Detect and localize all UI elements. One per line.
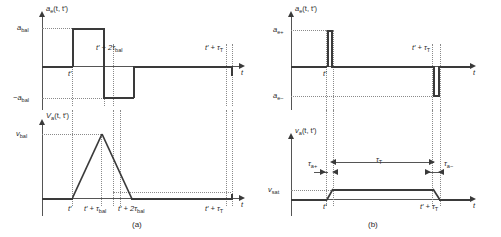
dimension-arrow-tau-a-plus-right-icon: [332, 169, 338, 175]
trace-plateau-neg: [103, 97, 134, 99]
trace-flat-before: [291, 199, 327, 201]
panel-a-velocity-plot: Va(t, t′) vbal t′ t′ + τbal t′ + 2τbal t…: [0, 110, 252, 237]
x-axis-label: t: [473, 202, 475, 210]
x-tick-label-tau-T: t′ + τT: [205, 205, 223, 213]
annotation-tau-T: τT: [376, 156, 382, 164]
trace-plateau-v-sat: [333, 189, 433, 191]
x-tick-label-2tau-bal: t′ + 2τbal: [118, 205, 144, 213]
y-axis-arrow-icon: [288, 133, 294, 139]
x-tick-label-tau-T: t′ + τT: [205, 44, 223, 52]
gridline-a-bal: [42, 28, 72, 29]
dimension-line-tau-T: [332, 162, 434, 163]
y-axis: [42, 16, 43, 110]
trace-spike-pos-rise: [327, 30, 329, 67]
trace-spike-neg-rise: [438, 66, 440, 97]
gridline-t-prime-tau-T-b: [232, 110, 233, 206]
trace-ramp-up: [72, 133, 103, 200]
annotation-tau-a-minus: τa−: [444, 160, 453, 168]
trace-baseline-right: [133, 66, 232, 68]
y-axis-arrow-icon: [39, 11, 45, 17]
y-axis: [291, 138, 292, 216]
panel-b-acceleration-plot: ae(t, t′) ae+ ae− t′ t′ + τT t: [252, 0, 501, 110]
y-tick-label-a-e-minus: ae−: [273, 92, 284, 100]
gridline-t-prime-tau-T: [226, 110, 227, 206]
panel-a-caption: (a): [132, 220, 142, 229]
gridline-t-prime-tau-T: [226, 44, 227, 106]
y-axis-title: ae(t, t′): [295, 5, 317, 13]
y-axis-title: ae(t, t′): [46, 5, 68, 13]
figure-root: ae(t, t′) abal −abal t′ t′ + 2τbal t′ + …: [0, 0, 501, 237]
y-tick-label-a-bal: abal: [17, 24, 29, 32]
panel-a: ae(t, t′) abal −abal t′ t′ + 2τbal t′ + …: [0, 0, 252, 237]
trace-fall-to-neg: [103, 28, 105, 98]
y-tick-label-v-sat: vsat: [268, 186, 279, 194]
y-axis-arrow-icon: [288, 11, 294, 17]
trace-flat-after: [131, 198, 232, 200]
trace-baseline-left: [42, 66, 73, 68]
panel-a-acceleration-plot: ae(t, t′) abal −abal t′ t′ + 2τbal t′ + …: [0, 0, 252, 110]
y-tick-label-neg-a-bal: −abal: [13, 94, 29, 102]
dimension-arrow-tau-a-minus-left-icon: [425, 169, 431, 175]
trace-ramp-down: [101, 133, 133, 200]
y-axis-arrow-icon: [39, 119, 45, 125]
dimension-arrow-tau-a-plus-left-icon: [320, 169, 326, 175]
trace-baseline-middle: [331, 66, 433, 68]
y-tick-label-v-bal: vbal: [16, 130, 27, 138]
panel-b-caption: (b): [368, 220, 378, 229]
panel-b-velocity-plot: va(t, t′) vsat τa+ τT τa− t′ t′ + τT t: [252, 110, 501, 237]
dimension-arrow-tau-T-left-icon: [330, 159, 336, 165]
annotation-tau-a-plus: τa+: [308, 160, 317, 168]
panel-b: ae(t, t′) ae+ ae− t′ t′ + τT t: [252, 0, 501, 237]
trace-terminal-edge: [231, 66, 233, 76]
dimension-arrow-tau-a-minus-right-icon: [438, 169, 444, 175]
gridline-a-e-plus: [291, 30, 330, 31]
x-tick-label-tau-bal: t′ + τbal: [84, 205, 106, 213]
gridline-a-e-minus: [291, 96, 436, 97]
dimension-arrow-tau-T-right-icon: [429, 159, 435, 165]
x-tick-label-t-prime: t′: [323, 203, 327, 211]
trace-rise-pos: [72, 28, 74, 67]
gridline-t-prime-tau-T-b: [440, 44, 441, 110]
gridline-neg-a-bal: [42, 98, 104, 99]
trace-spike-pos-fall: [331, 30, 333, 67]
trace-plateau-pos: [72, 28, 104, 30]
trace-flat-before: [42, 198, 73, 200]
x-tick-label-2tau-bal: t′ + 2τbal: [96, 44, 122, 52]
x-tick-label-tau-T: t′ + τT: [412, 44, 430, 52]
x-tick-label-t-prime: t′: [68, 205, 72, 213]
y-axis-title: Va(t, t′): [46, 112, 69, 120]
gridline-t-prime-b: [333, 30, 334, 110]
y-axis: [42, 124, 43, 216]
trace-spike-neg-fall: [433, 66, 435, 97]
x-tick-label-t-prime: t′: [323, 70, 327, 78]
trace-baseline-right: [438, 66, 471, 68]
x-axis-label: t: [241, 69, 243, 77]
trace-flat-after: [439, 199, 471, 201]
trace-terminal-edge: [231, 194, 233, 200]
y-axis-title: va(t, t′): [295, 127, 317, 135]
gridline-v-sat: [291, 190, 331, 191]
x-axis-label: t: [241, 201, 243, 209]
y-tick-label-a-e-plus: ae+: [273, 26, 284, 34]
x-tick-label-tau-T: t′ + τT: [420, 203, 438, 211]
trace-baseline-left: [291, 66, 327, 68]
trace-rise-to-zero: [133, 66, 135, 98]
x-tick-label-t-prime: t′: [68, 70, 72, 78]
x-axis-label: t: [473, 69, 475, 77]
